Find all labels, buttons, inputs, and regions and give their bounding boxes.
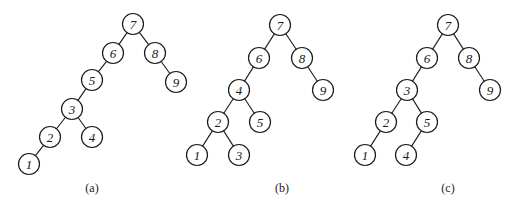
tree-node: 5 bbox=[250, 112, 271, 133]
tree-node: 7 bbox=[123, 14, 144, 35]
tree-node: 6 bbox=[249, 48, 270, 69]
node-label: 9 bbox=[320, 83, 327, 98]
tree-node: 2 bbox=[40, 127, 61, 148]
node-label: 2 bbox=[383, 115, 390, 130]
binary-tree-figure: 768953241(a)768942513(b)768932514(c) bbox=[0, 0, 516, 205]
tree-edge bbox=[413, 99, 422, 113]
tree-node: 1 bbox=[187, 145, 208, 166]
tree-edge bbox=[224, 99, 233, 113]
node-label: 2 bbox=[215, 115, 222, 130]
tree-edge bbox=[245, 67, 254, 81]
node-label: 8 bbox=[299, 51, 306, 66]
tree-node: 7 bbox=[270, 15, 291, 36]
node-label: 4 bbox=[403, 148, 410, 163]
tree-edge bbox=[78, 89, 86, 101]
tree-edge bbox=[475, 67, 484, 81]
tree-edge bbox=[35, 145, 43, 155]
tree-edge bbox=[265, 34, 275, 49]
tree-edge bbox=[392, 99, 401, 113]
node-label: 5 bbox=[424, 115, 431, 130]
tree-node: 3 bbox=[62, 99, 83, 120]
tree-node: 9 bbox=[313, 80, 334, 101]
tree-edge bbox=[371, 131, 381, 146]
tree-edge bbox=[413, 67, 422, 81]
node-label: 7 bbox=[277, 18, 284, 33]
node-label: 4 bbox=[89, 130, 96, 145]
tree-caption: (b) bbox=[275, 181, 289, 195]
tree-node: 9 bbox=[480, 80, 501, 101]
node-label: 2 bbox=[47, 130, 54, 145]
node-label: 1 bbox=[194, 148, 201, 163]
tree-caption: (a) bbox=[85, 181, 98, 195]
node-label: 7 bbox=[130, 17, 137, 32]
node-label: 5 bbox=[257, 115, 264, 130]
node-label: 3 bbox=[68, 102, 76, 117]
node-label: 7 bbox=[445, 18, 452, 33]
tree-node: 9 bbox=[166, 72, 187, 93]
tree-edge bbox=[224, 131, 234, 146]
node-label: 6 bbox=[110, 46, 117, 61]
tree-b: 768942513(b) bbox=[187, 15, 334, 196]
tree-node: 4 bbox=[396, 145, 417, 166]
tree-node: 2 bbox=[208, 112, 229, 133]
tree-edge bbox=[412, 131, 422, 146]
tree-edge bbox=[161, 62, 170, 74]
node-label: 4 bbox=[236, 83, 243, 98]
node-label: 3 bbox=[235, 148, 243, 163]
tree-caption: (c) bbox=[441, 181, 454, 195]
tree-edge bbox=[433, 34, 443, 49]
tree-a: 768953241(a) bbox=[19, 14, 187, 196]
tree-edge bbox=[245, 99, 254, 113]
tree-edge bbox=[98, 61, 106, 71]
node-label: 5 bbox=[89, 73, 96, 88]
tree-node: 8 bbox=[292, 48, 313, 69]
tree-node: 4 bbox=[82, 127, 103, 148]
node-label: 6 bbox=[256, 51, 263, 66]
node-label: 1 bbox=[26, 157, 33, 172]
tree-edge bbox=[203, 131, 213, 146]
node-label: 9 bbox=[173, 75, 180, 90]
tree-node: 8 bbox=[459, 48, 480, 69]
tree-node: 3 bbox=[397, 80, 418, 101]
tree-edge bbox=[286, 34, 296, 50]
tree-edge bbox=[119, 33, 127, 45]
node-label: 8 bbox=[152, 46, 159, 61]
tree-node: 1 bbox=[355, 145, 376, 166]
tree-node: 4 bbox=[229, 80, 250, 101]
tree-node: 3 bbox=[229, 145, 250, 166]
tree-node: 7 bbox=[438, 15, 459, 36]
node-label: 6 bbox=[424, 51, 431, 66]
tree-node: 6 bbox=[103, 43, 124, 64]
tree-edge bbox=[139, 32, 148, 44]
tree-edge bbox=[308, 67, 317, 81]
node-label: 9 bbox=[487, 83, 494, 98]
tree-edge bbox=[56, 117, 65, 128]
tree-node: 2 bbox=[376, 112, 397, 133]
node-label: 3 bbox=[403, 83, 411, 98]
node-label: 8 bbox=[466, 51, 473, 66]
tree-c: 768932514(c) bbox=[355, 15, 501, 196]
tree-node: 8 bbox=[145, 43, 166, 64]
tree-node: 5 bbox=[82, 70, 103, 91]
tree-edge bbox=[454, 34, 464, 49]
tree-node: 5 bbox=[417, 112, 438, 133]
node-label: 1 bbox=[362, 148, 369, 163]
tree-node: 1 bbox=[19, 154, 40, 175]
tree-node: 6 bbox=[417, 48, 438, 69]
tree-edge bbox=[78, 118, 86, 129]
